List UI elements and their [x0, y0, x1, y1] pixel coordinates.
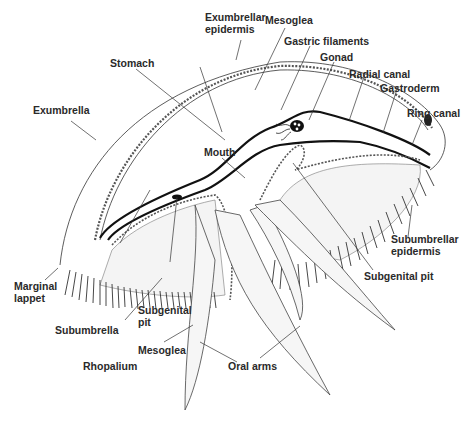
label-stomach: Stomach	[110, 57, 154, 69]
label-oral-arms: Oral arms	[228, 360, 277, 372]
label-mouth: Mouth	[204, 146, 236, 158]
label-mesoglea-bottom: Mesoglea	[138, 344, 186, 356]
label-subumbrellar-epidermis: Subumbrellar epidermis	[391, 233, 459, 257]
label-subumbrella: Subumbrella	[55, 324, 119, 336]
label-rhopalium: Rhopalium	[83, 360, 137, 372]
label-mesoglea-top: Mesoglea	[265, 14, 313, 26]
label-gonad: Gonad	[320, 51, 353, 63]
label-exumbrella: Exumbrella	[33, 104, 90, 116]
label-ring-canal: Ring canal	[407, 107, 460, 119]
label-subgenital-pit-left: Subgenital pit	[138, 304, 192, 328]
label-marginal-lappet: Marginal lappet	[14, 280, 57, 304]
label-exumbrellar-epidermis: Exumbrellar epidermis	[205, 11, 266, 35]
label-subgenital-pit-right: Subgenital pit	[364, 270, 433, 282]
label-gastric-filaments: Gastric filaments	[284, 35, 369, 47]
label-gastroderm: Gastroderm	[380, 82, 440, 94]
label-radial-canal: Radial canal	[349, 68, 410, 80]
